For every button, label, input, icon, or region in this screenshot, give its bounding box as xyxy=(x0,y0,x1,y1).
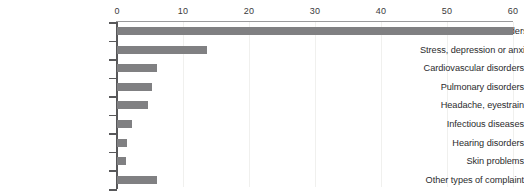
y-axis-tick xyxy=(109,22,117,24)
category-label: Pulmonary disorders xyxy=(420,82,524,92)
x-tick-label: 20 xyxy=(244,6,254,16)
bar-row: Hearing disorders xyxy=(0,133,524,152)
bar xyxy=(117,27,513,35)
category-label: Other types of complaint xyxy=(420,175,524,185)
bar-chart: 0102030405060 Musculo-skeletal disorders… xyxy=(0,0,524,191)
bar xyxy=(117,120,132,128)
bar-row: Headache, eyestrain xyxy=(0,96,524,115)
category-label: Hearing disorders xyxy=(420,138,524,148)
bar xyxy=(117,101,148,109)
x-tick-label: 30 xyxy=(310,6,320,16)
bar-row: Skin problems xyxy=(0,152,524,171)
category-label: Stress, depression or anxiety xyxy=(420,45,524,55)
y-axis-tick xyxy=(109,115,117,117)
y-axis-tick xyxy=(109,59,117,61)
y-axis-tick xyxy=(109,78,117,80)
category-label: Skin problems xyxy=(420,156,524,166)
bar-row: Musculo-skeletal disorders xyxy=(0,22,524,41)
x-tick-label: 40 xyxy=(376,6,386,16)
x-axis-tick-labels: 0102030405060 xyxy=(0,6,524,20)
bar-row: Cardiovascular disorders xyxy=(0,59,524,78)
bar xyxy=(117,46,207,54)
category-label: Headache, eyestrain xyxy=(420,100,524,110)
bar xyxy=(117,157,126,165)
bar xyxy=(117,83,152,91)
bar-row: Infectious diseases xyxy=(0,115,524,134)
bar-row: Other types of complaint xyxy=(0,170,524,189)
x-tick-label: 0 xyxy=(114,6,119,16)
category-label: Cardiovascular disorders xyxy=(420,63,524,73)
x-tick-label: 50 xyxy=(442,6,452,16)
bar-row: Stress, depression or anxiety xyxy=(0,41,524,60)
y-axis-tick xyxy=(109,133,117,135)
bar xyxy=(117,64,157,72)
y-axis-tick xyxy=(109,152,117,154)
y-axis-tick xyxy=(109,189,117,191)
bar xyxy=(117,176,157,184)
x-tick-label: 10 xyxy=(178,6,188,16)
bar-row: Pulmonary disorders xyxy=(0,78,524,97)
y-axis-tick xyxy=(109,96,117,98)
x-tick-label: 60 xyxy=(508,6,518,16)
y-axis-tick xyxy=(109,170,117,172)
bar xyxy=(117,139,127,147)
category-label: Infectious diseases xyxy=(420,119,524,129)
y-axis-tick xyxy=(109,41,117,43)
